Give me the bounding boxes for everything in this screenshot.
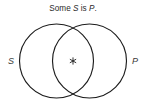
- venn-diagram-figure: Some S is P. S P: [0, 0, 147, 102]
- venn-diagram-canvas: Some S is P. S P: [0, 0, 147, 102]
- figure-caption: Some S is P.: [49, 4, 96, 13]
- caption-part-1: Some: [49, 4, 73, 13]
- label-set-p: P: [132, 56, 138, 66]
- caption-part-2: is: [78, 4, 88, 13]
- caption-part-3: .: [94, 4, 96, 13]
- label-set-s: S: [8, 56, 14, 66]
